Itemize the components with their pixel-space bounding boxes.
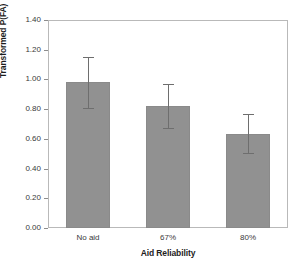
error-bar-stem	[168, 84, 169, 129]
error-bar-cap-lower	[243, 153, 254, 154]
error-bar-stem	[88, 57, 89, 108]
y-tick-mark	[44, 20, 48, 21]
x-tick-label: 80%	[208, 233, 288, 242]
y-tick-mark	[44, 228, 48, 229]
x-tick-label: 67%	[128, 233, 208, 242]
x-tick-label: No aid	[48, 233, 128, 242]
y-tick-mark	[44, 79, 48, 80]
y-tick-label: 0.00	[0, 223, 41, 232]
chart-screenshot: Transformed P(FA) Aid Reliability 0.000.…	[0, 0, 306, 273]
y-tick-mark	[44, 169, 48, 170]
error-bar-cap-upper	[243, 114, 254, 115]
y-tick-label: 0.40	[0, 164, 41, 173]
y-tick-label: 0.80	[0, 104, 41, 113]
y-tick-label: 0.20	[0, 193, 41, 202]
error-bar-stem	[248, 114, 249, 153]
y-tick-label: 1.40	[0, 15, 41, 24]
y-tick-label: 1.20	[0, 45, 41, 54]
y-tick-label: 0.60	[0, 134, 41, 143]
x-axis-title: Aid Reliability	[48, 248, 288, 258]
error-bar-cap-upper	[163, 84, 174, 85]
y-tick-mark	[44, 50, 48, 51]
error-bar-cap-lower	[163, 128, 174, 129]
y-tick-mark	[44, 139, 48, 140]
y-tick-label: 1.00	[0, 74, 41, 83]
y-axis-title: Transformed P(FA)	[0, 0, 8, 78]
y-tick-mark	[44, 198, 48, 199]
error-bar-cap-upper	[83, 57, 94, 58]
y-tick-mark	[44, 109, 48, 110]
error-bar-cap-lower	[83, 108, 94, 109]
